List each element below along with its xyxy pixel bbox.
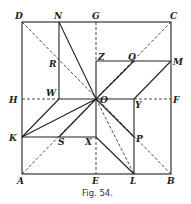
- label-a: A: [16, 176, 24, 186]
- label-p: P: [135, 134, 143, 144]
- label-s: S: [58, 137, 65, 147]
- label-c: C: [170, 11, 178, 21]
- label-l: L: [129, 176, 136, 186]
- label-m: M: [172, 57, 184, 67]
- label-e: E: [91, 176, 99, 186]
- geometry-figure: D N G C Z Q M R H W O Y F K S X P A E L …: [0, 0, 191, 204]
- label-o: O: [100, 95, 108, 105]
- label-h: H: [8, 95, 18, 105]
- label-r: R: [48, 59, 57, 69]
- line-no: [59, 22, 96, 99]
- label-w: W: [46, 88, 57, 98]
- label-d: D: [14, 11, 23, 21]
- line-ym: [134, 61, 171, 99]
- label-n: N: [53, 11, 63, 21]
- line-kw: [22, 99, 59, 137]
- line-oq: [96, 61, 134, 99]
- label-b: B: [166, 176, 175, 186]
- figure-caption: Fig. 54.: [82, 188, 113, 198]
- label-f: F: [172, 95, 180, 105]
- label-x: X: [84, 137, 93, 147]
- label-q: Q: [128, 52, 136, 62]
- label-k: K: [8, 133, 18, 143]
- label-z: Z: [97, 52, 105, 62]
- line-xl: [96, 137, 134, 174]
- line-ko: [22, 99, 96, 137]
- line-so: [59, 99, 96, 137]
- label-g: G: [92, 11, 100, 21]
- label-y: Y: [135, 100, 143, 110]
